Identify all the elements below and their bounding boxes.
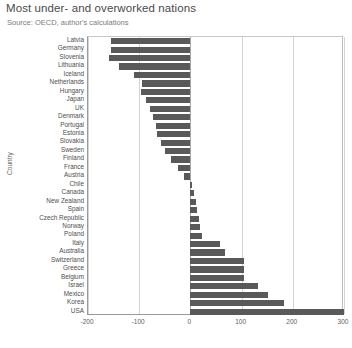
bar-belgium <box>190 275 243 281</box>
bar-row <box>88 122 342 130</box>
bar-sweden <box>165 148 190 154</box>
bar-switzerland <box>190 258 243 264</box>
y-tick-australia: Australia <box>1 247 87 255</box>
bar-row <box>88 231 342 239</box>
bar-chile <box>190 182 192 188</box>
bar-canada <box>190 190 194 196</box>
bar-row <box>88 223 342 231</box>
bar-row <box>88 240 342 248</box>
bar-row <box>88 265 342 273</box>
bar-row <box>88 45 342 53</box>
bar-row <box>88 105 342 113</box>
x-tick--100: -100 <box>118 318 158 325</box>
bar-spain <box>190 207 197 213</box>
bar-hungary <box>141 89 190 95</box>
bar-row <box>88 291 342 299</box>
bar-usa <box>190 309 344 315</box>
bar-row <box>88 147 342 155</box>
y-tick-japan: Japan <box>1 95 87 103</box>
bar-row <box>88 71 342 79</box>
y-tick-france: France <box>1 163 87 171</box>
y-tick-netherlands: Netherlands <box>1 78 87 86</box>
bar-row <box>88 181 342 189</box>
bar-austria <box>184 173 190 179</box>
bar-row <box>88 138 342 146</box>
y-tick-sweden: Sweden <box>1 146 87 154</box>
y-tick-norway: Norway <box>1 222 87 230</box>
bar-row <box>88 79 342 87</box>
bar-row <box>88 113 342 121</box>
y-tick-iceland: Iceland <box>1 70 87 78</box>
bar-italy <box>190 241 219 247</box>
y-tick-slovakia: Slovakia <box>1 137 87 145</box>
bar-norway <box>190 224 200 230</box>
y-tick-estonia: Estonia <box>1 129 87 137</box>
x-tick-100: 100 <box>221 318 261 325</box>
bar-row <box>88 274 342 282</box>
bar-row <box>88 130 342 138</box>
bar-row <box>88 257 342 265</box>
y-tick-austria: Austria <box>1 171 87 179</box>
bar-row <box>88 282 342 290</box>
y-tick-mexico: Mexico <box>1 290 87 298</box>
y-tick-belgium: Belgium <box>1 273 87 281</box>
bar-france <box>178 165 191 171</box>
bar-poland <box>190 233 201 239</box>
y-tick-new-zealand: New Zealand <box>1 197 87 205</box>
bar-row <box>88 62 342 70</box>
y-tick-poland: Poland <box>1 230 87 238</box>
bar-row <box>88 155 342 163</box>
bar-korea <box>190 300 284 306</box>
bar-australia <box>190 249 225 255</box>
bar-germany <box>111 47 190 53</box>
y-tick-usa: USA <box>1 307 87 315</box>
chart-figure: Most under- and overworked nations Sourc… <box>0 0 352 348</box>
bar-estonia <box>157 131 191 137</box>
bar-row <box>88 215 342 223</box>
y-tick-korea: Korea <box>1 298 87 306</box>
bar-iceland <box>134 72 191 78</box>
bar-row <box>88 299 342 307</box>
y-tick-germany: Germany <box>1 44 87 52</box>
bar-slovakia <box>161 140 190 146</box>
y-tick-spain: Spain <box>1 205 87 213</box>
y-tick-chile: Chile <box>1 180 87 188</box>
bar-portugal <box>156 123 191 129</box>
bar-uk <box>150 106 190 112</box>
plot-area <box>87 36 343 315</box>
x-tick-0: 0 <box>169 318 209 325</box>
bar-czech-republic <box>190 216 199 222</box>
x-tick-200: 200 <box>272 318 312 325</box>
y-tick-slovenia: Slovenia <box>1 53 87 61</box>
bar-row <box>88 248 342 256</box>
x-tick--200: -200 <box>67 318 107 325</box>
bar-row <box>88 172 342 180</box>
bar-new-zealand <box>190 199 195 205</box>
chart-subtitle: Source: OECD, author's calculations <box>7 18 129 27</box>
bar-latvia <box>111 38 190 44</box>
y-axis-tick-labels: LatviaGermanySloveniaLithuaniaIcelandNet… <box>0 36 87 315</box>
bar-denmark <box>153 114 191 120</box>
bar-mexico <box>190 292 267 298</box>
y-tick-canada: Canada <box>1 188 87 196</box>
bar-row <box>88 164 342 172</box>
y-tick-finland: Finland <box>1 154 87 162</box>
bar-row <box>88 88 342 96</box>
y-tick-latvia: Latvia <box>1 36 87 44</box>
bar-japan <box>146 97 191 103</box>
chart-title: Most under- and overworked nations <box>6 2 196 14</box>
y-tick-switzerland: Switzerland <box>1 256 87 264</box>
bar-row <box>88 308 342 316</box>
bar-israel <box>190 283 258 289</box>
bar-row <box>88 54 342 62</box>
bar-row <box>88 37 342 45</box>
x-tick-300: 300 <box>323 318 352 325</box>
bar-netherlands <box>142 80 190 86</box>
bar-greece <box>190 266 243 272</box>
bar-row <box>88 198 342 206</box>
y-tick-lithuania: Lithuania <box>1 61 87 69</box>
y-tick-israel: Israel <box>1 281 87 289</box>
bar-slovenia <box>109 55 190 61</box>
y-tick-portugal: Portugal <box>1 121 87 129</box>
y-tick-greece: Greece <box>1 264 87 272</box>
